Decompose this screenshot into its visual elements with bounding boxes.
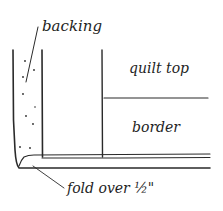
backing-label: backing bbox=[42, 19, 102, 34]
border-bottom-edge bbox=[42, 158, 210, 159]
border-label: border bbox=[132, 120, 180, 134]
quilt-top-label: quilt top bbox=[129, 61, 189, 75]
backing-leader-line bbox=[26, 27, 38, 82]
quilt-left-edge bbox=[102, 50, 103, 157]
quilt-binding-diagram: backing quilt top border fold over ½" bbox=[0, 0, 223, 211]
backing-inner-fold bbox=[19, 154, 210, 166]
fold-over-label: fold over ½" bbox=[67, 181, 154, 195]
fold-leader-line bbox=[33, 166, 64, 188]
backing-inner-edge bbox=[42, 50, 43, 157]
